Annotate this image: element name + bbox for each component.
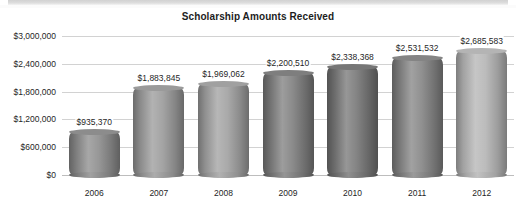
bar-slot: $2,531,532 (392, 36, 443, 175)
bar-bottom-cap (133, 172, 184, 178)
scan-artifact-band-secondary (0, 5, 516, 8)
x-axis-tick-label: 2007 (149, 188, 168, 198)
bar-value-label: $2,200,510 (266, 58, 311, 68)
bar-slot: $1,969,062 (198, 36, 249, 175)
bar-top-cap (392, 55, 443, 61)
bar-bottom-cap (327, 172, 378, 178)
bar-value-label: $1,969,062 (201, 69, 246, 79)
bar-2010[interactable] (327, 67, 378, 175)
x-axis-tick-label: 2006 (85, 188, 104, 198)
y-axis-tick-label: $1,800,000 (13, 87, 56, 97)
x-axis-tick-label: 2010 (343, 188, 362, 198)
bar-slot: $2,200,510 (263, 36, 314, 175)
bar-top-cap (133, 85, 184, 91)
bar-top-cap (263, 70, 314, 76)
bar-slot: $935,370 (69, 36, 120, 175)
x-axis-tick-label: 2008 (214, 188, 233, 198)
bar-slot: $2,685,583 (456, 36, 507, 175)
chart-container: Scholarship Amounts Received $0$600,000$… (0, 0, 516, 213)
bar-bottom-cap (456, 172, 507, 178)
bar-top-cap (198, 81, 249, 87)
bar-2008[interactable] (198, 84, 249, 175)
chart-title: Scholarship Amounts Received (0, 11, 516, 22)
x-axis-tick-label: 2012 (472, 188, 491, 198)
y-axis-tick-label: $1,200,000 (13, 114, 56, 124)
bar-top-cap (456, 48, 507, 54)
bar-top-cap (327, 64, 378, 70)
bar-value-label: $2,338,368 (330, 52, 375, 62)
bar-value-label: $1,883,845 (137, 73, 182, 83)
y-axis-tick-label: $3,000,000 (13, 31, 56, 41)
bar-2012[interactable] (456, 51, 507, 175)
bar-bottom-cap (198, 172, 249, 178)
bar-value-label: $935,370 (76, 117, 113, 127)
y-axis-tick-label: $0 (47, 170, 56, 180)
x-axis-tick-label: 2011 (408, 188, 426, 198)
bar-bottom-cap (392, 172, 443, 178)
bar-value-label: $2,531,532 (395, 43, 440, 53)
y-axis-tick-label: $600,000 (21, 142, 56, 152)
bar-2007[interactable] (133, 88, 184, 175)
bar-2006[interactable] (69, 132, 120, 175)
plot-area: $935,370$1,883,845$1,969,062$2,200,510$2… (62, 36, 514, 175)
y-axis: $0$600,000$1,200,000$1,800,000$2,400,000… (0, 36, 58, 175)
bar-bottom-cap (69, 172, 120, 178)
x-axis-tick-label: 2009 (279, 188, 298, 198)
bar-bottom-cap (263, 172, 314, 178)
bar-slot: $2,338,368 (327, 36, 378, 175)
bar-slot: $1,883,845 (133, 36, 184, 175)
bar-2011[interactable] (392, 58, 443, 175)
bar-value-label: $2,685,583 (459, 36, 504, 46)
bar-2009[interactable] (263, 73, 314, 175)
y-axis-tick-label: $2,400,000 (13, 59, 56, 69)
bar-top-cap (69, 129, 120, 135)
